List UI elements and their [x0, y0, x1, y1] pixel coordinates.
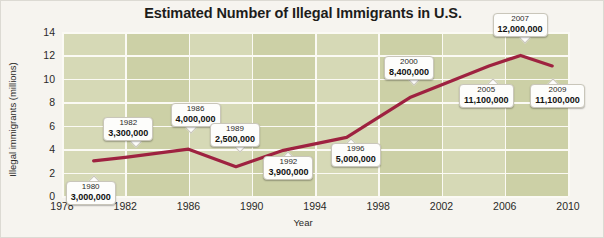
- data-point-callout: 19892,500,000: [210, 123, 260, 147]
- callout-value: 3,000,000: [71, 192, 111, 202]
- callout-year: 1980: [71, 183, 111, 192]
- x-axis-tick-label: 2002: [417, 200, 467, 212]
- x-axis-tick-label: 1986: [164, 200, 214, 212]
- y-axis-tick-label: 2: [19, 167, 55, 179]
- callout-value: 3,300,000: [108, 128, 148, 138]
- gridline-vertical: [568, 32, 570, 196]
- x-axis-title: Year: [1, 217, 604, 228]
- data-line-series: [62, 32, 568, 196]
- callout-year: 1992: [268, 158, 308, 167]
- callout-year: 1996: [336, 145, 376, 154]
- callout-value: 11,100,000: [464, 95, 509, 105]
- callout-year: 1989: [215, 125, 255, 134]
- callout-year: 2007: [498, 15, 543, 24]
- callout-value: 5,000,000: [336, 154, 376, 164]
- plot-area: [62, 32, 568, 196]
- data-point-callout: 19965,000,000: [331, 143, 381, 167]
- callout-value: 4,000,000: [176, 114, 216, 124]
- data-point-callout: 200712,000,000: [493, 13, 548, 37]
- y-axis-tick-label: 10: [19, 73, 55, 85]
- callout-year: 2000: [389, 58, 429, 67]
- callout-year: 2009: [535, 86, 580, 95]
- x-axis-tick-label: 2006: [480, 200, 530, 212]
- y-axis-tick-label: 4: [19, 143, 55, 155]
- chart-container: Estimated Number of Illegal Immigrants i…: [0, 0, 604, 238]
- data-point-callout: 19823,300,000: [103, 117, 153, 141]
- callout-year: 1982: [108, 119, 148, 128]
- callout-value: 11,100,000: [535, 95, 580, 105]
- x-axis-tick-label: 1994: [290, 200, 340, 212]
- x-axis-tick-label: 1990: [227, 200, 277, 212]
- gridline-horizontal: [62, 196, 568, 198]
- callout-year: 1986: [176, 105, 216, 114]
- data-point-callout: 19803,000,000: [66, 181, 116, 205]
- data-point-callout: 200911,100,000: [530, 84, 585, 108]
- y-axis-tick-label: 6: [19, 120, 55, 132]
- x-axis-tick-label: 1998: [353, 200, 403, 212]
- y-axis-tick-label: 12: [19, 49, 55, 61]
- y-axis-tick-label: 8: [19, 96, 55, 108]
- y-axis-title: Illegal immigrants (millions): [7, 45, 18, 195]
- data-point-callout: 200511,100,000: [459, 84, 514, 108]
- y-axis-tick-label: 14: [19, 26, 55, 38]
- x-axis-tick-label: 2010: [543, 200, 593, 212]
- callout-value: 12,000,000: [498, 24, 543, 34]
- callout-value: 8,400,000: [389, 67, 429, 77]
- callout-value: 3,900,000: [268, 167, 308, 177]
- callout-year: 2005: [464, 86, 509, 95]
- data-point-callout: 19923,900,000: [263, 156, 313, 180]
- series-line: [94, 55, 553, 166]
- data-point-callout: 20008,400,000: [384, 56, 434, 80]
- callout-value: 2,500,000: [215, 134, 255, 144]
